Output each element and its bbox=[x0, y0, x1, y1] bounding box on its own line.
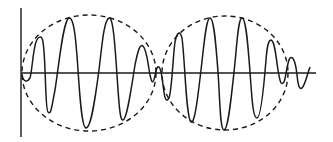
beat-wave-diagram bbox=[0, 0, 333, 142]
